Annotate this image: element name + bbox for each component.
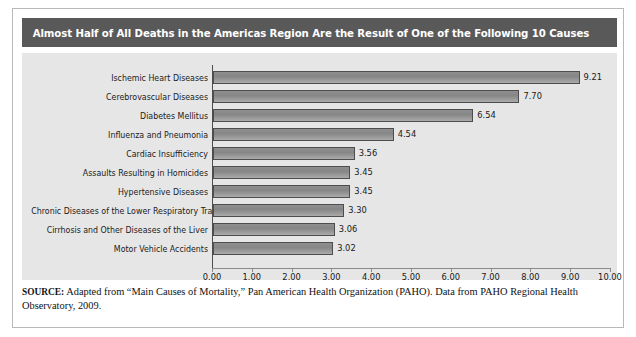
bar: [213, 223, 335, 236]
bar-with-value: 6.54: [213, 108, 496, 122]
bar-rows: Ischemic Heart Diseases9.21Cerebrovascul…: [22, 68, 617, 258]
x-axis-tick-label: 7.00: [481, 272, 499, 282]
bar-with-value: 4.54: [213, 127, 416, 141]
bar-chart-plot: Ischemic Heart Diseases9.21Cerebrovascul…: [22, 53, 617, 280]
x-axis-tick-label: 2.00: [282, 272, 300, 282]
bar: [213, 242, 333, 255]
bar-row: Assaults Resulting in Homicides3.45: [22, 163, 617, 182]
bar: [213, 109, 473, 122]
bar-category-label: Cerebrovascular Diseases: [31, 92, 208, 102]
bar-row: Influenza and Pneumonia4.54: [22, 125, 617, 144]
x-axis-tick-label: 5.00: [402, 272, 420, 282]
bar: [213, 90, 519, 103]
bar-category-label: Influenza and Pneumonia: [31, 130, 208, 140]
source-text: Adapted from “Main Causes of Mortality,”…: [22, 286, 578, 311]
figure-container: Almost Half of All Deaths in the America…: [12, 8, 624, 328]
bar-category-label: Cirrhosis and Other Diseases of the Live…: [31, 225, 208, 235]
bar-with-value: 3.30: [213, 203, 367, 217]
bar-row: Ischemic Heart Diseases9.21: [22, 68, 617, 87]
source-label: SOURCE:: [22, 287, 64, 297]
bar: [213, 204, 344, 217]
x-axis-tick-label: 9.00: [561, 272, 579, 282]
bar-row: Cirrhosis and Other Diseases of the Live…: [22, 220, 617, 239]
x-axis-tick-label: 0.00: [203, 272, 221, 282]
x-axis-tick-label: 10.00: [598, 272, 622, 282]
bar-category-label: Motor Vehicle Accidents: [31, 244, 208, 254]
bar-category-label: Hypertensive Diseases: [31, 187, 208, 197]
page-title: Almost Half of All Deaths in the America…: [22, 27, 589, 39]
bar-row: Hypertensive Diseases3.45: [22, 182, 617, 201]
bar-row: Cerebrovascular Diseases7.70: [22, 87, 617, 106]
source-note: SOURCE: Adapted from “Main Causes of Mor…: [22, 285, 605, 313]
bar-with-value: 7.70: [213, 89, 542, 103]
chart-title-banner: Almost Half of All Deaths in the America…: [22, 18, 617, 47]
bar-value-label: 3.06: [339, 224, 357, 234]
bar-with-value: 3.06: [213, 222, 357, 236]
bar-with-value: 3.45: [213, 165, 373, 179]
bar-with-value: 3.45: [213, 184, 373, 198]
bar-category-label: Diabetes Mellitus: [31, 111, 208, 121]
bar: [213, 128, 394, 141]
x-axis-tick-label: 3.00: [322, 272, 340, 282]
bar-row: Cardiac Insufficiency3.56: [22, 144, 617, 163]
bar-category-label: Ischemic Heart Diseases: [31, 73, 208, 83]
x-axis-tick-label: 4.00: [362, 272, 380, 282]
x-axis-tick-label: 6.00: [442, 272, 460, 282]
bar: [213, 147, 355, 160]
x-axis-tick-label: 1.00: [243, 272, 261, 282]
bar-value-label: 9.21: [584, 72, 602, 82]
bar-value-label: 3.02: [337, 243, 355, 253]
bar: [213, 185, 350, 198]
bar-category-label: Assaults Resulting in Homicides: [31, 168, 208, 178]
bar: [213, 166, 350, 179]
bar-value-label: 3.45: [354, 186, 372, 196]
bar-category-label: Chronic Diseases of the Lower Respirator…: [31, 206, 208, 216]
bar-with-value: 9.21: [213, 70, 602, 84]
chart-panel: Ischemic Heart Diseases9.21Cerebrovascul…: [22, 53, 617, 280]
bar-with-value: 3.56: [213, 146, 377, 160]
bar-value-label: 6.54: [477, 110, 495, 120]
bar-value-label: 3.30: [348, 205, 366, 215]
bar-row: Chronic Diseases of the Lower Respirator…: [22, 201, 617, 220]
x-axis-tick-label: 8.00: [521, 272, 539, 282]
bar: [213, 71, 580, 84]
bar-with-value: 3.02: [213, 241, 356, 255]
bar-value-label: 4.54: [398, 129, 416, 139]
bar-value-label: 7.70: [523, 91, 541, 101]
bar-value-label: 3.45: [354, 167, 372, 177]
bar-row: Motor Vehicle Accidents3.02: [22, 239, 617, 258]
bar-row: Diabetes Mellitus6.54: [22, 106, 617, 125]
bar-value-label: 3.56: [359, 148, 377, 158]
bar-category-label: Cardiac Insufficiency: [31, 149, 208, 159]
